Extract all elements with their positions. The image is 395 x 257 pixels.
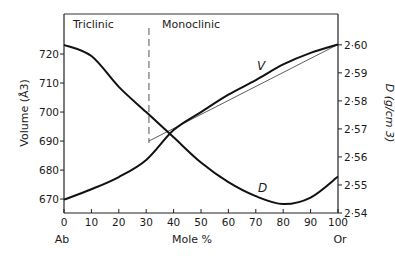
right-y-tick-label: 2·55 [344,179,367,191]
left-y-tick-label: 670 [39,193,59,205]
left-y-tick-label: 680 [39,164,59,176]
right-y-tick-label: 2·56 [344,151,368,163]
x-end-label-or: Or [333,233,347,246]
right-y-tick-label: 2·57 [344,123,367,135]
x-axis-title: Mole % [172,233,212,246]
x-tick-label: 80 [277,216,290,228]
x-tick-label: 90 [304,216,317,228]
right-y-tick-label: 2·54 [344,207,368,219]
chart: 0102030405060708090100 67068069070071072… [0,0,395,257]
right-y-tick-label: 2·60 [344,39,367,51]
x-tick-label: 0 [61,216,68,228]
left-y-tick-label: 710 [39,77,59,89]
x-tick-label: 40 [167,216,180,228]
left-y-tick-label: 720 [39,48,59,60]
region-label-triclinic: Triclinic [72,18,114,31]
x-tick-label: 50 [194,216,207,228]
left-y-tick-label: 700 [39,106,59,118]
x-tick-label: 70 [249,216,262,228]
left-y-tick-label: 690 [39,135,59,147]
x-axis-ticks: 0102030405060708090100 [61,209,348,228]
curve-label-v: V [257,59,266,73]
curve-label-d: D [258,181,267,195]
right-y-tick-label: 2·58 [344,95,367,107]
right-y-tick-label: 2·59 [344,67,367,79]
left-y-axis-ticks: 670680690700710720 [39,48,64,205]
density-curve-D [64,45,338,204]
x-tick-label: 20 [112,216,125,228]
region-label-monoclinic: Monoclinic [162,18,220,31]
right-y-axis-ticks: 2·542·552·562·572·582·592·60 [338,39,368,219]
left-axis-title: Volume (Å3) [18,79,31,147]
x-end-label-ab: Ab [55,233,70,246]
volume-curve-V [64,44,338,199]
x-tick-label: 10 [85,216,98,228]
right-axis-title: D (g/cm 3) [383,84,395,143]
x-tick-label: 60 [222,216,235,228]
x-tick-label: 30 [140,216,153,228]
